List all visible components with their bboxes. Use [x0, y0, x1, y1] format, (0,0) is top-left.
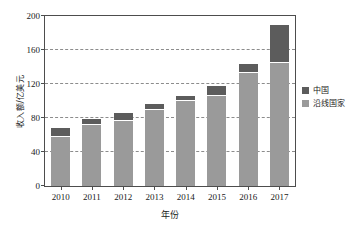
- x-tick-label: 2015: [208, 192, 226, 202]
- x-tick-label: 2014: [177, 192, 195, 202]
- bar-segment-route-countries[interactable]: [82, 125, 101, 186]
- x-tick-label: 2011: [83, 192, 101, 202]
- plot-inner: 04080120160200 2010201120122013201420152…: [45, 16, 295, 186]
- x-tick-mark: [217, 186, 218, 190]
- bar-group[interactable]: [82, 16, 101, 186]
- bar-group[interactable]: [207, 16, 226, 186]
- x-tick-mark: [61, 186, 62, 190]
- x-axis-title: 年份: [44, 210, 296, 220]
- x-tick-mark: [279, 186, 280, 190]
- bar-segment-china[interactable]: [239, 64, 258, 73]
- plot-area: 04080120160200 2010201120122013201420152…: [44, 15, 296, 187]
- bar-group[interactable]: [114, 16, 133, 186]
- x-tick-mark: [186, 186, 187, 190]
- bar-segment-route-countries[interactable]: [114, 121, 133, 186]
- y-axis-title: 收入额/亿美元: [16, 42, 25, 162]
- x-tick-mark: [123, 186, 124, 190]
- bar-segment-route-countries[interactable]: [207, 96, 226, 186]
- x-tick-label: 2016: [239, 192, 257, 202]
- bar-segment-route-countries[interactable]: [270, 63, 289, 186]
- bar-segment-china[interactable]: [270, 25, 289, 63]
- x-tick-mark: [154, 186, 155, 190]
- bar-segment-route-countries[interactable]: [145, 110, 164, 186]
- chart-figure: 收入额/亿美元 04080120160200 20102011201220132…: [0, 0, 364, 232]
- bar-segment-china[interactable]: [114, 113, 133, 122]
- legend-item[interactable]: 中国: [302, 86, 345, 95]
- y-tick-label: 80: [31, 114, 40, 123]
- x-tick-label: 2013: [145, 192, 163, 202]
- bar-group[interactable]: [145, 16, 164, 186]
- bar-group[interactable]: [239, 16, 258, 186]
- y-tick-label: 160: [27, 46, 41, 55]
- bar-segment-china[interactable]: [51, 128, 70, 137]
- bar-series-container: [45, 16, 295, 186]
- x-tick-label: 2017: [270, 192, 288, 202]
- chart-legend: 中国沿线国家: [302, 86, 345, 108]
- x-tick-label: 2012: [114, 192, 132, 202]
- legend-swatch-icon: [302, 87, 309, 94]
- legend-label: 沿线国家: [313, 99, 345, 108]
- bar-segment-route-countries[interactable]: [176, 101, 195, 186]
- bar-segment-china[interactable]: [145, 104, 164, 111]
- y-tick-label: 200: [27, 12, 41, 21]
- legend-item[interactable]: 沿线国家: [302, 99, 345, 108]
- legend-swatch-icon: [302, 100, 309, 107]
- x-tick-mark: [92, 186, 93, 190]
- bar-group[interactable]: [176, 16, 195, 186]
- x-tick-label: 2010: [52, 192, 70, 202]
- x-tick-mark: [248, 186, 249, 190]
- bar-segment-route-countries[interactable]: [239, 73, 258, 186]
- bar-group[interactable]: [270, 16, 289, 186]
- bar-segment-china[interactable]: [207, 86, 226, 96]
- y-tick-label: 0: [36, 182, 41, 191]
- bar-group[interactable]: [51, 16, 70, 186]
- y-tick-label: 120: [27, 80, 41, 89]
- bar-segment-route-countries[interactable]: [51, 137, 70, 186]
- legend-label: 中国: [313, 86, 329, 95]
- y-tick-label: 40: [31, 148, 40, 157]
